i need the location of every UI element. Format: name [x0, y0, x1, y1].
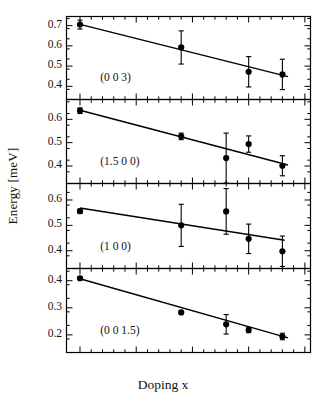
- data-point: [223, 321, 229, 327]
- data-point: [279, 333, 285, 339]
- panel-label: (0 0 3): [100, 71, 131, 83]
- y-tick-label: 0.6: [22, 111, 62, 123]
- y-tick-label: 0.5: [22, 135, 62, 147]
- y-tick-label: 0.4: [22, 78, 62, 90]
- panel-4: [67, 269, 311, 353]
- data-point: [77, 208, 83, 214]
- fit-line: [80, 24, 288, 76]
- data-point: [178, 44, 184, 50]
- panel-2: [67, 100, 311, 184]
- figure-container: Energy [meV] Doping x 0.70.60.50.4(0 0 3…: [0, 0, 326, 403]
- y-tick-label: 0.5: [22, 58, 62, 70]
- panel-label: (1.5 0 0): [100, 155, 139, 167]
- data-point: [178, 309, 184, 315]
- data-point: [246, 327, 252, 333]
- x-axis-label: Doping x: [0, 377, 326, 393]
- y-axis-label: Energy [meV]: [5, 126, 21, 246]
- y-tick-label: 0.6: [22, 192, 62, 204]
- y-tick-label: 0.4: [22, 158, 62, 170]
- data-point: [178, 222, 184, 228]
- data-point: [279, 248, 285, 254]
- data-point: [77, 21, 83, 27]
- y-tick-label: 0.2: [22, 327, 62, 339]
- y-tick-label: 0.5: [22, 217, 62, 229]
- data-point: [77, 275, 83, 281]
- data-point: [246, 141, 252, 147]
- data-point: [246, 236, 252, 242]
- panel-label: (0 0 1.5): [100, 324, 139, 336]
- data-point: [77, 108, 83, 114]
- data-point: [279, 71, 285, 77]
- data-point: [178, 133, 184, 139]
- y-tick-label: 0.6: [22, 38, 62, 50]
- y-tick-label: 0.7: [22, 18, 62, 30]
- data-point: [279, 163, 285, 169]
- y-tick-label: 0.4: [22, 243, 62, 255]
- y-tick-label: 0.4: [22, 273, 62, 285]
- panel-label: (1 0 0): [100, 240, 131, 252]
- panel-1: [67, 17, 311, 100]
- data-point: [223, 155, 229, 161]
- data-point: [223, 208, 229, 214]
- data-point: [246, 69, 252, 75]
- y-tick-label: 0.3: [22, 300, 62, 312]
- panel-3: [67, 184, 311, 269]
